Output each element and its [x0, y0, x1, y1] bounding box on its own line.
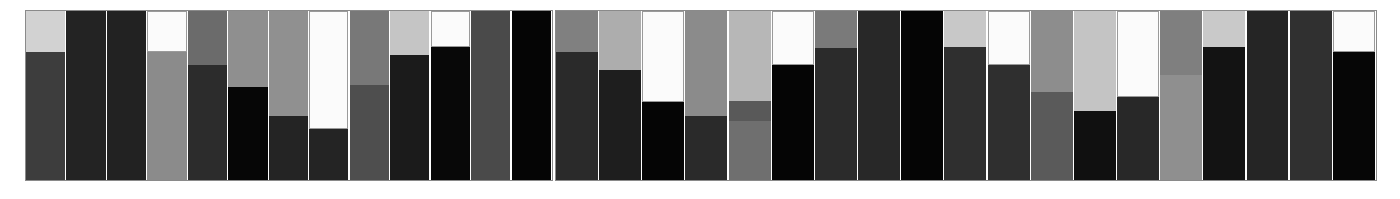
- bar-segment: [772, 65, 814, 180]
- bar-segment: [147, 52, 186, 180]
- bar-segment: [269, 116, 308, 180]
- bar-segment: [188, 65, 227, 180]
- bar: [1333, 11, 1375, 180]
- bar-segment: [599, 70, 641, 180]
- bar-segment: [815, 11, 857, 48]
- plot-area: [556, 11, 1376, 180]
- bar: [642, 11, 684, 180]
- bar-segment: [944, 11, 986, 46]
- bar-segment: [188, 11, 227, 65]
- bar-segment: [1247, 11, 1289, 180]
- plot-area: [26, 11, 552, 180]
- bar-segment: [729, 121, 771, 180]
- bar: [815, 11, 857, 180]
- bar: [1203, 11, 1245, 180]
- bar: [228, 11, 267, 180]
- bar: [309, 11, 348, 180]
- bar-segment: [390, 55, 429, 180]
- bar-segment: [1117, 97, 1159, 180]
- bar: [26, 11, 65, 180]
- bar-segment: [729, 11, 771, 101]
- bar: [269, 11, 308, 180]
- bar-segment: [772, 11, 814, 65]
- bar: [944, 11, 986, 180]
- bar-segment: [685, 116, 727, 180]
- bar: [685, 11, 727, 180]
- bar: [1031, 11, 1073, 180]
- bar-segment: [1160, 11, 1202, 75]
- bar-segment: [1117, 11, 1159, 97]
- bar-segment: [1203, 11, 1245, 46]
- bar: [599, 11, 641, 180]
- bar-segment: [390, 11, 429, 55]
- bar: [729, 11, 771, 180]
- bar: [901, 11, 943, 180]
- bar-segment: [1333, 52, 1375, 180]
- panel-right: [555, 10, 1377, 181]
- bar-segment: [1160, 75, 1202, 180]
- bar-segment: [685, 11, 727, 116]
- bar: [556, 11, 598, 180]
- bar-segment: [512, 11, 551, 180]
- bar-segment: [1074, 11, 1116, 111]
- bar: [66, 11, 105, 180]
- bar: [512, 11, 551, 180]
- bar: [988, 11, 1030, 180]
- bar: [471, 11, 510, 180]
- bar-segment: [1074, 111, 1116, 180]
- bar-segment: [642, 11, 684, 102]
- bar: [858, 11, 900, 180]
- bar-segment: [901, 11, 943, 180]
- bar-segment: [350, 11, 389, 85]
- bar-segment: [988, 11, 1030, 65]
- bar-segment: [1031, 11, 1073, 92]
- bar-segment: [988, 65, 1030, 180]
- bar: [431, 11, 470, 180]
- bar-segment: [269, 11, 308, 116]
- bar-segment: [26, 52, 65, 180]
- bar-segment: [1031, 92, 1073, 180]
- bar-segment: [944, 47, 986, 181]
- bar-segment: [729, 101, 771, 121]
- bar: [1160, 11, 1202, 180]
- bar-segment: [431, 11, 470, 46]
- bar: [350, 11, 389, 180]
- bar-segment: [228, 11, 267, 87]
- bar-segment: [642, 102, 684, 180]
- bar-segment: [1203, 47, 1245, 181]
- bar: [1247, 11, 1289, 180]
- bar-segment: [66, 11, 105, 180]
- bar: [1074, 11, 1116, 180]
- bar-segment: [350, 85, 389, 180]
- bar-segment: [556, 52, 598, 180]
- bar-segment: [309, 11, 348, 129]
- panel-left: [25, 10, 553, 181]
- bar-segment: [26, 11, 65, 52]
- bar-segment: [309, 129, 348, 180]
- bar: [390, 11, 429, 180]
- bar: [107, 11, 146, 180]
- bar: [147, 11, 186, 180]
- bar-segment: [107, 11, 146, 180]
- bar-segment: [228, 87, 267, 180]
- bar-segment: [599, 11, 641, 70]
- bar-segment: [1333, 11, 1375, 52]
- bar: [188, 11, 227, 180]
- bar-segment: [1290, 11, 1332, 180]
- bar-segment: [147, 11, 186, 52]
- bar: [1290, 11, 1332, 180]
- chart-figure: [0, 0, 1400, 199]
- bar-segment: [815, 48, 857, 180]
- bar-segment: [556, 11, 598, 52]
- bar: [772, 11, 814, 180]
- bar: [1117, 11, 1159, 180]
- bar-segment: [858, 11, 900, 180]
- bar-segment: [431, 47, 470, 181]
- bar-segment: [471, 11, 510, 180]
